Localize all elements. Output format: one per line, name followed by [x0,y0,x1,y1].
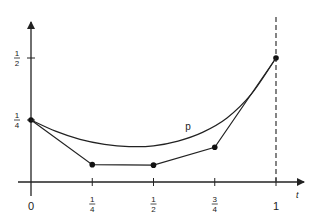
y-tick-label-denominator: 4 [15,121,20,130]
control-polygon [31,58,276,165]
x-tick-label-denominator: 4 [90,205,95,214]
x-tick-label-numerator: 1 [90,195,95,204]
x-tick-label-numerator: 1 [151,195,156,204]
curve-p [31,58,276,147]
x-tick-label-numerator: 3 [213,195,218,204]
y-tick-label-numerator: 1 [15,49,20,58]
control-point [89,162,95,168]
x-tick-label-denominator: 4 [213,205,218,214]
x-tick-label-denominator: 2 [151,205,156,214]
diagram-canvas: t 01412341 1412 p [0,0,315,222]
x-axis-label: t [296,190,299,200]
y-tick-label-denominator: 2 [15,59,20,68]
y-tick-label-numerator: 1 [15,111,20,120]
curve-label-p: p [185,121,191,132]
x-tick-label: 1 [273,200,279,212]
x-tick-label: 0 [28,200,34,212]
control-point [151,162,157,168]
control-point [212,144,218,150]
